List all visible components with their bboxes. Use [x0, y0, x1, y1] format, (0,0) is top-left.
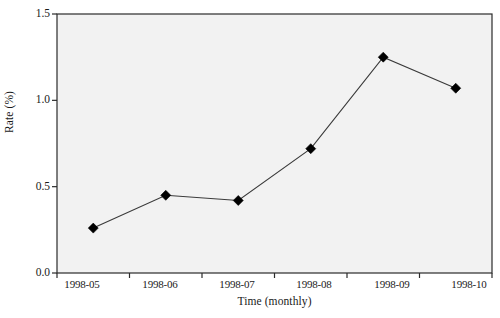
- y-tick-label: 1.0: [20, 94, 50, 106]
- y-tick-marks: [52, 14, 57, 273]
- x-tick-label: 1998-06: [124, 278, 196, 290]
- x-tick-label: 1998-08: [278, 278, 350, 290]
- plot-background: [57, 14, 492, 273]
- x-axis-title: Time (monthly): [57, 295, 492, 307]
- chart-figure: Rate (%) 1.5 1.0 0.5 0.0 1998-05 1998-06…: [0, 0, 500, 318]
- x-tick-label: 1998-07: [201, 278, 273, 290]
- x-tick-label: 1998-10: [433, 278, 500, 290]
- x-tick-label: 1998-05: [46, 278, 118, 290]
- y-tick-label: 0.0: [20, 267, 50, 279]
- plot-area: [0, 0, 500, 318]
- x-tick-label: 1998-09: [356, 278, 428, 290]
- y-axis-title: Rate (%): [3, 67, 15, 157]
- y-tick-label: 1.5: [20, 8, 50, 20]
- y-tick-label: 0.5: [20, 181, 50, 193]
